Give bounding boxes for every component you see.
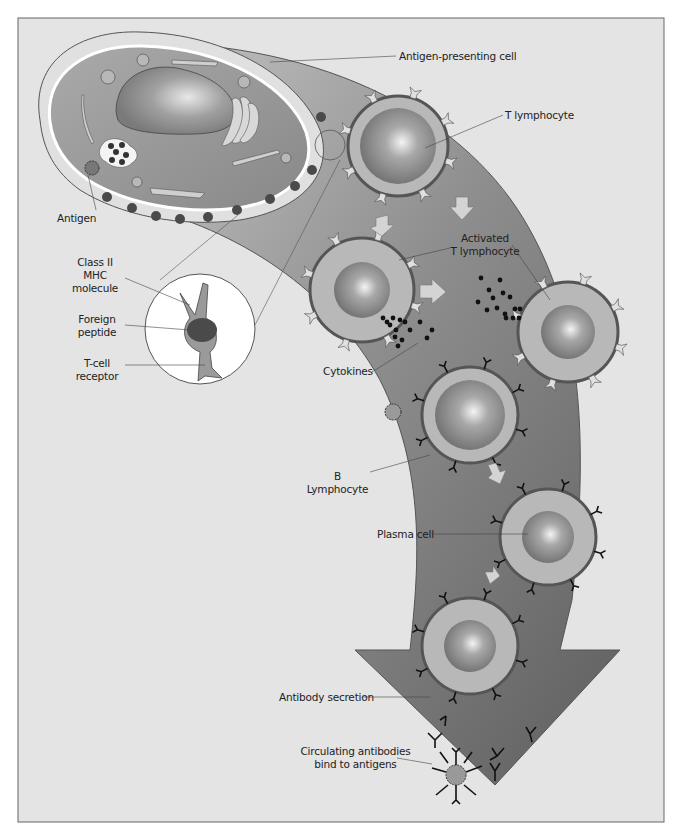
cytokine-dot bbox=[495, 306, 500, 311]
cytokine-dot bbox=[485, 308, 490, 313]
cytokine-dot bbox=[501, 291, 506, 296]
label-foreign-peptide: Foreign peptide bbox=[72, 313, 122, 339]
foreign-peptide-shape bbox=[187, 318, 217, 342]
label-line: Activated bbox=[450, 232, 520, 245]
label-line: receptor bbox=[72, 370, 122, 383]
cytokine-dot bbox=[476, 300, 481, 305]
label-line: B bbox=[305, 470, 370, 483]
cytokine-dot bbox=[504, 316, 509, 321]
cytokine-dot bbox=[396, 344, 401, 349]
cytokine-dot bbox=[394, 328, 399, 333]
cytokine-dot bbox=[513, 307, 518, 312]
label-b-lymphocyte: B Lymphocyte bbox=[305, 470, 370, 496]
label-circulating-antibodies: Circulating antibodies bind to antigens bbox=[298, 745, 413, 771]
label-antigen-presenting-cell: Antigen-presenting cell bbox=[399, 50, 516, 63]
cytokine-dot bbox=[518, 307, 523, 312]
cytokine-dot bbox=[479, 276, 484, 281]
nucleus bbox=[444, 620, 496, 672]
label-activated-t-lymphocyte: Activated T lymphocyte bbox=[450, 232, 520, 258]
cytokine-dot bbox=[498, 278, 503, 283]
cytokine-dot bbox=[418, 320, 423, 325]
cytokine-dot bbox=[508, 295, 513, 300]
cytokine-dot bbox=[391, 316, 396, 321]
nucleus bbox=[360, 108, 436, 184]
label-line: molecule bbox=[65, 282, 125, 295]
cytokine-dot bbox=[398, 318, 403, 323]
cytokine-dot bbox=[400, 338, 405, 343]
nucleus bbox=[435, 380, 505, 450]
cytokine-dot bbox=[425, 336, 430, 341]
label-t-cell-receptor: T-cell receptor bbox=[72, 357, 122, 383]
cytokine-dot bbox=[403, 320, 408, 325]
label-line: T lymphocyte bbox=[450, 245, 520, 258]
label-line: T-cell bbox=[72, 357, 122, 370]
label-line: Foreign bbox=[72, 313, 122, 326]
antigen-particle bbox=[385, 404, 401, 420]
label-t-lymphocyte: T lymphocyte bbox=[505, 109, 574, 122]
label-line: Circulating antibodies bbox=[298, 745, 413, 758]
cytokine-dot bbox=[381, 316, 386, 321]
label-line: MHC bbox=[65, 269, 125, 282]
cytokine-dot bbox=[503, 312, 508, 317]
cytokine-dot bbox=[487, 288, 492, 293]
cytokine-dot bbox=[517, 316, 522, 321]
cytokine-dot bbox=[393, 335, 398, 340]
inset-mhc-tcr bbox=[145, 274, 255, 384]
nucleus bbox=[334, 262, 390, 318]
label-plasma-cell: Plasma cell bbox=[377, 528, 434, 541]
label-antibody-secretion: Antibody secretion bbox=[279, 691, 374, 704]
label-line: Class II bbox=[65, 256, 125, 269]
label-antigen: Antigen bbox=[57, 212, 96, 225]
label-class-ii-mhc: Class II MHC molecule bbox=[65, 256, 125, 295]
immune-response-diagram bbox=[0, 0, 677, 835]
antigen-particle bbox=[85, 161, 99, 175]
label-line: Lymphocyte bbox=[305, 483, 370, 496]
cytokine-dot bbox=[491, 296, 496, 301]
cytokine-dot bbox=[511, 316, 516, 321]
cytokine-dot bbox=[430, 328, 435, 333]
cytokine-dot bbox=[388, 323, 393, 328]
cytokine-dot bbox=[408, 328, 413, 333]
label-line: bind to antigens bbox=[298, 758, 413, 771]
nucleus bbox=[522, 511, 574, 563]
label-line: peptide bbox=[72, 326, 122, 339]
nucleus bbox=[541, 305, 595, 359]
label-cytokines: Cytokines bbox=[323, 365, 373, 378]
